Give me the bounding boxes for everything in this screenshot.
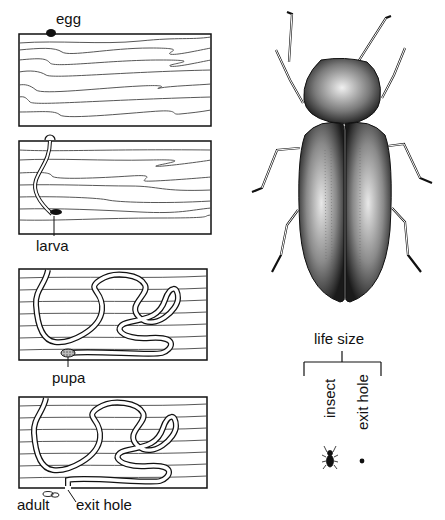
- larva-icon: [50, 209, 62, 215]
- panel-adult: [19, 397, 207, 502]
- panel-larva: [19, 135, 211, 236]
- egg-icon: [46, 29, 56, 37]
- life-size-exit-hole-label: exit hole: [355, 374, 370, 430]
- life-size-bracket: [304, 351, 381, 376]
- diagram-canvas: [0, 0, 445, 520]
- life-size-exit-hole-icon: [360, 459, 365, 464]
- pupa-icon: [61, 349, 75, 357]
- life-size-insect-icon: [322, 446, 338, 469]
- beetle-illustration: [252, 12, 432, 302]
- life-size-insect-label: insect: [322, 379, 337, 418]
- panel-pupa: [19, 269, 207, 367]
- panel-egg: [19, 29, 211, 126]
- label-pupa: pupa: [52, 370, 85, 385]
- life-size-heading: life size: [314, 331, 364, 346]
- label-adult: adult: [17, 497, 50, 512]
- label-exit-hole: exit hole: [76, 497, 132, 512]
- label-larva: larva: [36, 238, 69, 253]
- label-egg: egg: [56, 11, 81, 26]
